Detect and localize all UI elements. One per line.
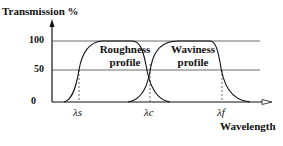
lambda-c-label: λc [144,106,154,118]
x-axis-label: Wavelength [220,120,276,132]
y-axis-label: Transmission % [2,5,79,17]
y-tick-50: 50 [14,63,44,74]
x-axis-arrow-icon [262,100,272,105]
waviness-label-line1: Waviness [163,43,223,56]
waviness-label-line2: profile [163,56,223,69]
y-axis-arrow-icon [50,19,55,27]
roughness-label-line2: profile [95,56,155,69]
y-tick-0: 0 [6,95,36,106]
waviness-label: Waviness profile [163,43,223,69]
y-tick-100: 100 [14,34,44,45]
lambda-s-label: λs [73,106,82,118]
lambda-f-label: λf [217,106,225,118]
roughness-label: Roughness profile [95,43,155,69]
roughness-label-line1: Roughness [95,43,155,56]
